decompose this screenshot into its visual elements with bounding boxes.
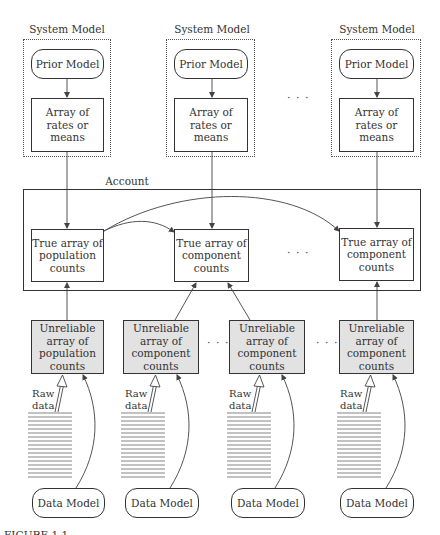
account-ellipsis: · · · [287,247,309,260]
prior-model-label: Prior Model [36,58,100,71]
node-text-line: counts [39,360,96,373]
node-text-line: component [131,347,190,360]
node-text-line: component [176,249,246,262]
node-text-line: counts [32,262,102,275]
raw-data-label-2: Raw data [125,388,147,411]
node-text-line: component [341,248,411,261]
true-array-node-3: True array of component counts [339,228,414,281]
unreliable-array-node-1: Unreliable array of population counts [31,320,104,374]
node-text-line: Unreliable [347,322,406,335]
rates-array-node-1: Array of rates or means [31,98,104,152]
unreliable-array-node-4: Unreliable array of component counts [339,320,414,374]
raw-data-label-3: Raw data [229,388,251,411]
data-model-node-4: Data Model [340,488,414,518]
unreliable-array-node-2: Unreliable array of component counts [123,320,199,374]
node-text-line: Unreliable [131,322,190,335]
top-ellipsis: · · · [287,92,309,105]
node-text-line: component [237,347,296,360]
node-text-line: rates or [46,119,89,132]
node-text-line: rates or [189,119,232,132]
data-model-node-1: Data Model [32,488,105,518]
raw-arrow-1 [55,375,67,412]
node-text-line: True array of [32,237,102,250]
unreliable-array-node-3: Unreliable array of component counts [229,320,305,374]
node-text-line: array of [39,335,96,348]
system-model-title-3: System Model [322,23,432,36]
node-text-line: array of [131,335,190,348]
raw-label-line: Raw [125,388,147,400]
data-model-label: Data Model [131,497,193,510]
data-model-label: Data Model [346,497,408,510]
bottom-ellipsis-1: · · · [207,337,229,350]
system-model-title-2: System Model [157,23,267,36]
node-text-line: population [39,347,96,360]
data-model-node-3: Data Model [231,488,305,518]
true-array-node-1: True array of population counts [31,229,104,282]
caption-text: FIGURE 1.1 ... [4,528,440,535]
raw-label-line: data [229,400,251,412]
node-text-line: population [32,249,102,262]
raw-label-line: Raw [32,388,54,400]
node-text-line: means [355,131,398,144]
node-text-line: counts [341,261,411,274]
raw-label-line: Raw [340,388,362,400]
prior-model-label: Prior Model [345,58,409,71]
data-model-label: Data Model [237,497,299,510]
prior-model-node-1: Prior Model [31,49,104,79]
node-text-line: array of [347,335,406,348]
node-text-line: rates or [355,119,398,132]
raw-label-line: data [32,400,54,412]
node-text-line: True array of [176,237,246,250]
data-model-label: Data Model [38,497,100,510]
raw-data-label-1: Raw data [32,388,54,411]
node-text-line: Unreliable [39,322,96,335]
node-text-line: component [347,347,406,360]
raw-data-lines-1 [28,413,72,477]
data-model-node-2: Data Model [125,488,199,518]
node-text-line: Unreliable [237,322,296,335]
raw-data-lines-2 [121,413,165,477]
prior-model-node-2: Prior Model [174,49,248,79]
figure-caption-clipped: FIGURE 1.1 ... [4,528,440,535]
prior-model-label: Prior Model [179,58,243,71]
raw-label-line: Raw [229,388,251,400]
node-text-line: counts [347,360,406,373]
node-text-line: means [189,131,232,144]
raw-data-lines-4 [337,413,381,477]
node-text-line: array of [237,335,296,348]
node-text-line: counts [131,360,190,373]
prior-model-node-3: Prior Model [339,49,414,79]
node-text-line: means [46,131,89,144]
node-text-line: counts [237,360,296,373]
node-text-line: True array of [341,236,411,249]
system-model-title-1: System Model [13,23,121,36]
true-array-node-2: True array of component counts [174,229,249,282]
raw-label-line: data [340,400,362,412]
rates-array-node-3: Array of rates or means [339,98,414,152]
account-title: Account [102,175,152,188]
raw-data-lines-3 [227,413,271,477]
raw-label-line: data [125,400,147,412]
node-text-line: Array of [189,106,232,119]
rates-array-node-2: Array of rates or means [174,98,248,152]
raw-data-label-4: Raw data [340,388,362,411]
bottom-ellipsis-2: · · · [316,337,338,350]
node-text-line: Array of [46,106,89,119]
node-text-line: Array of [355,106,398,119]
node-text-line: counts [176,262,246,275]
